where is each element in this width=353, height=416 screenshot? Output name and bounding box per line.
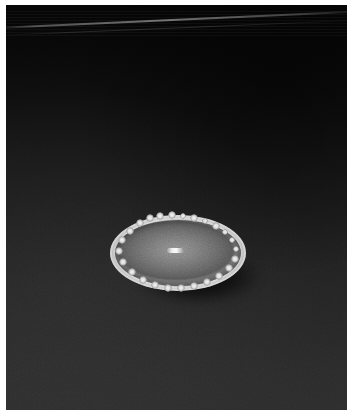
image-canvas [0, 0, 353, 416]
dark-field-background [6, 5, 347, 410]
rim-nodule [128, 268, 135, 275]
rim-nodule [118, 236, 125, 243]
rim-nodule [146, 214, 153, 221]
rim-nodule [203, 278, 210, 285]
rim-nodule [151, 281, 158, 288]
rim-nodule [164, 284, 172, 292]
photographic-border-frame [6, 5, 347, 410]
rim-nodule [212, 222, 219, 229]
elliptical-specimen [110, 215, 246, 291]
specimen-rim-outline [110, 215, 246, 291]
rim-nodule [136, 219, 143, 226]
rim-nodule [215, 272, 223, 280]
center-specular-highlight [167, 248, 184, 253]
rim-nodule [119, 258, 127, 266]
rim-nodule [231, 255, 238, 262]
rim-nodule [168, 211, 175, 218]
rim-nodule [126, 227, 133, 234]
rim-nodule [139, 276, 146, 283]
rim-nodule [115, 247, 122, 254]
rim-nodule [190, 214, 198, 222]
rim-nodule [177, 284, 185, 292]
rim-nodule [225, 264, 232, 271]
rim-nodule [190, 282, 198, 290]
